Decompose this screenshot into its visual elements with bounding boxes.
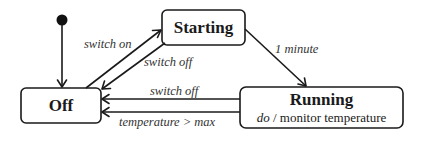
initial-state [57, 15, 68, 88]
initial-state-dot [57, 15, 68, 26]
transition-label-1-minute: 1 minute [275, 42, 319, 56]
transition-label-switch-off-running: switch off [150, 84, 200, 98]
state-machine-diagram: Off Starting Running do / monitor temper… [0, 0, 421, 141]
transition-label-switch-off-starting: switch off [144, 55, 194, 69]
state-running-activity: do / monitor temperature [257, 110, 387, 125]
transition-temperature-max: temperature > max [102, 108, 240, 130]
state-running-name: Running [290, 90, 354, 109]
state-starting[interactable]: Starting [162, 10, 245, 45]
transition-label-switch-on: switch on [84, 37, 132, 51]
activity-separator: / [270, 110, 280, 125]
transition-line [245, 29, 306, 86]
transition-running-switch-off: switch off [102, 84, 240, 104]
state-off[interactable]: Off [21, 88, 101, 123]
state-off-name: Off [49, 96, 74, 115]
activity-text: monitor temperature [280, 110, 387, 125]
transition-1-minute: 1 minute [245, 29, 319, 86]
state-starting-name: Starting [174, 18, 234, 37]
transition-label-temperature-max: temperature > max [119, 115, 216, 129]
state-running[interactable]: Running do / monitor temperature [240, 87, 403, 128]
activity-keyword: do [257, 110, 271, 125]
